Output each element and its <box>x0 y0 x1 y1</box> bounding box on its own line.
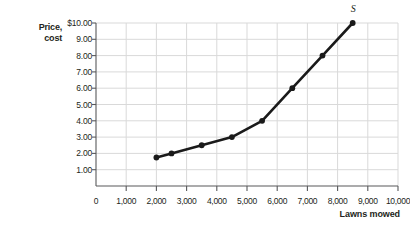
y-axis-ticks <box>92 23 96 170</box>
data-point <box>199 142 205 148</box>
data-point <box>259 118 265 124</box>
data-point <box>229 134 235 140</box>
x-axis-ticks <box>126 186 398 191</box>
data-point <box>350 20 356 26</box>
data-point <box>289 85 295 91</box>
data-point <box>320 53 326 59</box>
data-point <box>169 151 175 157</box>
data-point <box>154 155 160 161</box>
data-point-markers <box>154 20 356 160</box>
